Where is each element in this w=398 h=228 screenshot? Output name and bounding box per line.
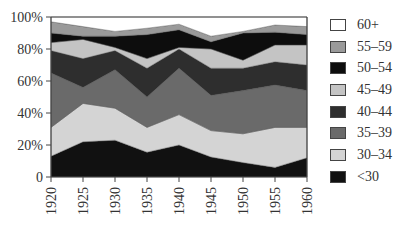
legend-item-60plus: 60+ <box>330 14 392 36</box>
y-tick-label: 100% <box>10 10 43 25</box>
legend-swatch <box>330 149 346 161</box>
legend-swatch <box>330 19 346 31</box>
legend-label: 30–34 <box>357 147 392 163</box>
legend-item-40-44: 40–44 <box>330 101 392 123</box>
x-tick-label: 1950 <box>236 187 251 215</box>
y-tick-label: 80% <box>17 42 43 57</box>
legend-item-55-59: 55–59 <box>330 36 392 58</box>
y-tick-label: 0 <box>36 170 43 185</box>
y-tick-label: 60% <box>17 74 43 89</box>
legend-label: 60+ <box>357 17 379 33</box>
legend-item-35-39: 35–39 <box>330 122 392 144</box>
x-tick-label: 1935 <box>140 187 155 215</box>
legend-swatch <box>330 84 346 96</box>
legend-item-50-54: 50–54 <box>330 57 392 79</box>
legend-swatch <box>330 41 346 53</box>
legend-item-30-34: 30–34 <box>330 144 392 166</box>
legend-label: <30 <box>357 169 379 185</box>
x-tick-label: 1940 <box>172 187 187 215</box>
legend-item-under-30: <30 <box>330 166 392 188</box>
legend-item-45-49: 45–49 <box>330 79 392 101</box>
legend-label: 40–44 <box>357 104 392 120</box>
legend-swatch <box>330 106 346 118</box>
x-tick-label: 1925 <box>76 187 91 215</box>
legend: 60+ 55–59 50–54 45–49 40–44 35–39 30–34 … <box>330 14 392 188</box>
legend-swatch <box>330 171 346 183</box>
x-tick-label: 1955 <box>268 187 283 215</box>
x-tick-label: 1960 <box>300 187 315 215</box>
legend-label: 45–49 <box>357 82 392 98</box>
legend-label: 35–39 <box>357 125 392 141</box>
legend-label: 55–59 <box>357 39 392 55</box>
x-tick-label: 1945 <box>204 187 219 215</box>
plot-areas <box>51 17 307 177</box>
y-tick-label: 40% <box>17 106 43 121</box>
legend-swatch <box>330 127 346 139</box>
x-tick-label: 1920 <box>44 187 59 215</box>
x-tick-label: 1930 <box>108 187 123 215</box>
y-tick-label: 20% <box>17 138 43 153</box>
legend-label: 50–54 <box>357 60 392 76</box>
legend-swatch <box>330 62 346 74</box>
